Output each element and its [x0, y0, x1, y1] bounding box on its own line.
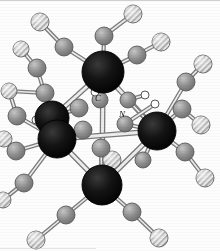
oxygen-atom	[196, 169, 214, 187]
oxygen-atom	[1, 83, 17, 99]
carbon-atom	[92, 139, 110, 157]
carbon-atom	[123, 203, 141, 221]
carbon-atom	[57, 206, 75, 224]
molecular-structure-figure: CN	[0, 0, 220, 251]
metal-atom	[82, 165, 122, 205]
figure-bottom-rule	[0, 248, 96, 249]
carbon-atom	[177, 73, 195, 91]
carbon-atom	[128, 46, 146, 64]
carbon-atom	[28, 59, 46, 77]
bridging-ligand-atom	[141, 91, 149, 99]
oxygen-atom	[13, 41, 29, 57]
label-c: C	[95, 93, 102, 103]
metal-atom	[38, 120, 76, 158]
oxygen-atom	[194, 55, 212, 73]
label-n: N	[118, 109, 126, 119]
carbon-atom	[36, 84, 54, 102]
carbon-atom	[176, 143, 194, 161]
carbon-atom	[8, 107, 26, 125]
figure-top-rule	[0, 0, 220, 1]
bridging-ligand-atom	[151, 100, 159, 108]
metal-atom	[138, 112, 176, 150]
metal-atom	[82, 51, 124, 93]
metal-atom-layer	[35, 51, 176, 205]
oxygen-atom	[192, 116, 210, 134]
carbon-atom	[135, 152, 151, 168]
carbon-atom	[74, 121, 92, 139]
carbon-atom	[15, 174, 33, 192]
carbon-atom	[95, 27, 113, 45]
structure-canvas: CN	[0, 0, 220, 251]
carbon-atom	[173, 100, 191, 118]
oxygen-atom	[152, 33, 170, 51]
oxygen-atom	[27, 231, 45, 249]
oxygen-atom	[150, 229, 168, 247]
oxygen-atom	[124, 5, 142, 23]
carbon-atom	[7, 142, 25, 160]
carbon-atom	[55, 38, 73, 56]
carbon-atom	[70, 99, 88, 117]
oxygen-atom	[31, 13, 49, 31]
carbon-atom	[120, 92, 136, 108]
